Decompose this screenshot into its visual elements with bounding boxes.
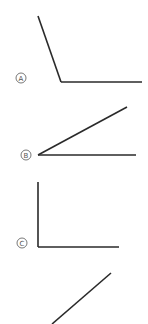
option-d-angle bbox=[52, 273, 111, 324]
option-c-angle: C bbox=[17, 182, 119, 248]
option-b-angle: B bbox=[21, 107, 136, 160]
option-c-label: C bbox=[20, 240, 25, 248]
option-b-ray-slanted bbox=[38, 107, 127, 155]
option-a-ray-slanted bbox=[38, 16, 61, 82]
option-a-label: A bbox=[19, 75, 24, 83]
angle-figure-canvas: A B C bbox=[0, 0, 148, 324]
option-d-ray-slanted bbox=[52, 273, 111, 324]
option-a-angle: A bbox=[16, 16, 142, 83]
option-b-label: B bbox=[24, 152, 29, 160]
